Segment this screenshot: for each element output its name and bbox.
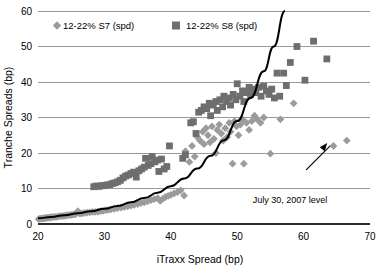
data-point: [287, 59, 294, 66]
data-point: [185, 158, 193, 166]
data-point: [294, 43, 301, 50]
data-point: [188, 142, 196, 150]
y-tick-60: 60: [21, 6, 33, 17]
data-point: [267, 150, 275, 158]
data-point: [229, 160, 237, 168]
data-point: [280, 70, 287, 77]
y-tick-40: 40: [21, 77, 33, 88]
legend-marker-square-s8: [172, 22, 180, 30]
data-point: [276, 115, 284, 123]
data-point: [158, 156, 165, 163]
scatter-plot: 0102030405060 203040506070 Tranche Sprea…: [0, 0, 381, 268]
y-axis-title: Tranche Spreads (bp): [2, 67, 14, 169]
data-point: [182, 151, 189, 158]
x-tick-labels-group: 203040506070: [32, 231, 376, 242]
data-point: [274, 70, 281, 77]
series-s8: [90, 38, 330, 190]
x-axis-title: iTraxx Spread (bp): [157, 253, 244, 265]
x-tick-60: 60: [298, 231, 310, 242]
y-tick-30: 30: [21, 112, 33, 123]
data-point: [163, 163, 170, 170]
legend-label-s8: 12-22% S8 (spd): [186, 20, 257, 31]
data-point: [290, 99, 298, 107]
trend-curve: [38, 11, 285, 218]
data-point: [234, 80, 241, 87]
x-tick-20: 20: [32, 231, 44, 242]
data-point: [193, 130, 200, 137]
data-point: [276, 93, 283, 100]
data-point: [343, 137, 351, 145]
data-point: [166, 143, 173, 150]
legend: 12-22% S7 (spd) 12-22% S8 (spd): [53, 20, 257, 31]
data-point: [323, 56, 330, 63]
x-tick-70: 70: [364, 231, 376, 242]
x-tick-30: 30: [99, 231, 111, 242]
annotation-arrow-line: [306, 146, 330, 170]
y-tick-20: 20: [21, 148, 33, 159]
y-tick-50: 50: [21, 41, 33, 52]
data-point: [283, 82, 290, 89]
data-point: [330, 142, 338, 150]
data-point: [191, 153, 199, 161]
data-point: [240, 160, 248, 168]
data-point: [133, 174, 140, 181]
x-tick-50: 50: [232, 231, 244, 242]
chart-container: 0102030405060 203040506070 Tranche Sprea…: [0, 0, 381, 268]
y-tick-0: 0: [26, 219, 32, 230]
data-point: [310, 38, 317, 45]
data-point: [245, 126, 253, 134]
legend-label-s7: 12-22% S7 (spd): [63, 20, 134, 31]
data-point: [207, 112, 214, 119]
x-tick-40: 40: [165, 231, 177, 242]
data-point: [302, 77, 309, 84]
data-point: [235, 131, 243, 139]
annotation-label: July 30, 2007 level: [253, 195, 328, 205]
legend-marker-diamond-s7: [53, 21, 61, 29]
y-tick-labels-group: 0102030405060: [21, 6, 33, 230]
y-tick-10: 10: [21, 183, 33, 194]
data-point: [190, 118, 197, 125]
annotation-july-level: July 30, 2007 level: [253, 143, 330, 205]
data-point: [268, 86, 275, 93]
